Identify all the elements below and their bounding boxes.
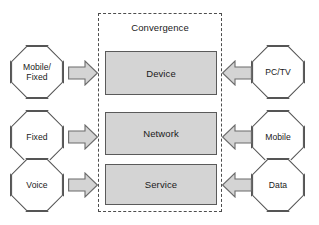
node-label-mobile-fixed: Mobile/ Fixed [23,62,51,83]
block-arrow-right-icon [68,172,98,198]
layer-label-network: Network [143,128,179,139]
node-label-pc-tv: PC/TV [265,67,291,78]
node-octagon-pc-tv: PC/TV [251,45,305,99]
node-octagon-mobile: Mobile [251,110,305,164]
node-octagon-data: Data [251,158,305,212]
layer-label-service: Service [145,179,177,190]
node-label-data: Data [269,180,287,191]
diagram-canvas: Convergence Device Network Service Mobil… [0,0,319,225]
node-label-fixed: Fixed [26,132,47,143]
block-arrow-left-icon [222,172,252,198]
block-arrow-right-icon [68,124,98,150]
node-label-mobile: Mobile [265,132,291,143]
node-octagon-voice: Voice [10,158,64,212]
layer-label-device: Device [146,68,176,79]
block-arrow-left-icon [222,124,252,150]
layer-box-device: Device [105,51,217,95]
convergence-title: Convergence [98,22,222,33]
block-arrow-right-icon [68,60,98,86]
layer-box-network: Network [105,112,217,155]
block-arrow-left-icon [222,60,252,86]
layer-box-service: Service [105,164,217,205]
node-octagon-fixed: Fixed [10,110,64,164]
node-label-voice: Voice [26,180,47,191]
node-octagon-mobile-fixed: Mobile/ Fixed [10,45,64,99]
